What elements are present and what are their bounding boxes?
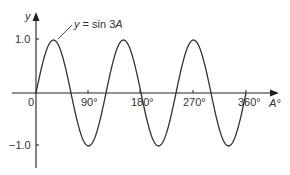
sine-chart: y A° 0 90° 180° 270° 360° 1.0 −1.0 y = s… <box>0 0 290 175</box>
annotation-leader <box>58 25 72 39</box>
y-tick-label-neg: −1.0 <box>9 139 31 151</box>
tick-label-180: 180° <box>131 96 154 108</box>
x-axis-arrow-icon <box>270 90 279 97</box>
y-axis-label: y <box>24 10 32 22</box>
curve-label: y = sin 3A <box>73 18 123 30</box>
tick-label-270: 270° <box>183 96 206 108</box>
origin-label: 0 <box>28 96 34 108</box>
tick-label-90: 90° <box>81 96 98 108</box>
x-axis-label: A° <box>268 97 281 109</box>
y-axis-arrow-icon <box>33 12 40 21</box>
y-tick-label-pos: 1.0 <box>15 33 30 45</box>
tick-label-360: 360° <box>238 96 261 108</box>
